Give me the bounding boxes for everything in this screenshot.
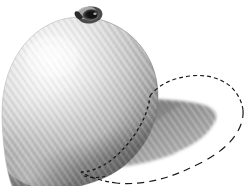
stem-bud-highlight (93, 13, 96, 15)
artwork-svg (0, 0, 248, 186)
sphere-bounce-light (0, 112, 92, 186)
sphere-highlight-core (38, 45, 62, 63)
image-canvas[interactable]: Rendered sphere with cast shadow and sel… (0, 0, 248, 186)
